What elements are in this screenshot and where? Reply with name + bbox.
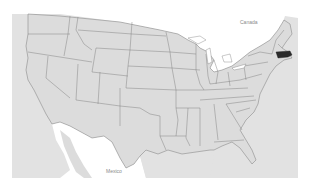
canada-label: Canada: [240, 19, 258, 25]
gulf-of-mexico: [140, 150, 214, 178]
us-map-svg: Canada Mexico: [0, 0, 319, 194]
mexico-label: Mexico: [106, 168, 122, 174]
us-map: Canada Mexico: [0, 0, 319, 194]
